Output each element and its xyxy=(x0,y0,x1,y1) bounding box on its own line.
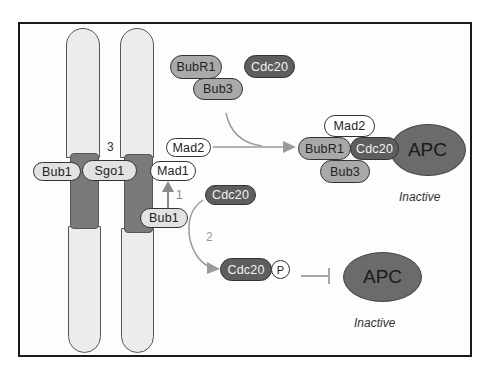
step2-label: 2 xyxy=(206,230,213,244)
bub3-free-protein: Bub3 xyxy=(193,78,243,100)
step1-arrowhead-icon xyxy=(162,181,174,192)
mcc-bubr1-protein: BubR1 xyxy=(298,137,351,160)
mad1-protein: Mad1 xyxy=(150,161,196,181)
phosphate-icon: P xyxy=(271,260,290,279)
mcc-cdc20-protein: Cdc20 xyxy=(350,137,399,160)
apc-complex-bottom: APC xyxy=(343,252,422,302)
mcc-inactive-label: Inactive xyxy=(399,190,440,204)
cdc20-free-protein-mid: Cdc20 xyxy=(205,185,256,205)
sgo1-protein: Sgo1 xyxy=(82,160,137,181)
step1-label: 1 xyxy=(176,188,183,202)
step3-label: 3 xyxy=(107,140,114,154)
cdc20-free-protein-top: Cdc20 xyxy=(244,55,295,78)
apc-inactive-label: Inactive xyxy=(354,316,395,330)
mcc-arrowhead-icon xyxy=(283,141,296,153)
step2-arrowhead-icon xyxy=(207,262,220,274)
bubr1-recruit-curve xyxy=(226,113,262,146)
cdc20-phospho-protein: Cdc20 xyxy=(220,258,272,281)
bub1-right-protein: Bub1 xyxy=(140,208,188,228)
bubr1-free-protein: BubR1 xyxy=(170,55,222,79)
mcc-mad2-protein: Mad2 xyxy=(324,115,375,137)
mad2-kinetochore-protein: Mad2 xyxy=(166,138,211,157)
apc-complex-top: APC xyxy=(390,124,466,176)
bub1-left-protein: Bub1 xyxy=(33,162,81,181)
mcc-bub3-protein: Bub3 xyxy=(320,160,370,183)
